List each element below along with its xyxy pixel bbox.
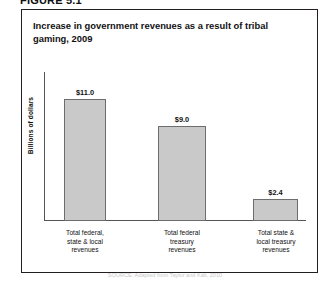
y-axis-line (44, 72, 45, 221)
category-label-line: revenues (145, 246, 219, 255)
category-label-3: Total state & local treasury revenues (239, 229, 313, 255)
category-label-2: Total federal treasury revenues (145, 229, 219, 255)
category-label-line: local treasury (239, 238, 313, 247)
category-label-1: Total federal, state & local revenues (48, 229, 122, 255)
y-axis-title: Billions of dollars (27, 91, 34, 161)
category-label-line: Total state & (239, 229, 313, 238)
category-label-line: treasury (145, 238, 219, 247)
bar-value-label: $11.0 (64, 88, 106, 97)
bar-total-state-local-treasury (253, 199, 298, 221)
bar-total-federal-state-local (64, 99, 106, 221)
category-label-line: Total federal, (48, 229, 122, 238)
category-label-line: state & local (48, 238, 122, 247)
bar-chart-plot-area: Billions of dollars $11.0 Total federal,… (22, 10, 318, 273)
category-label-line: revenues (48, 246, 122, 255)
category-label-line: revenues (239, 246, 313, 255)
figure-box: Increase in government revenues as a res… (21, 9, 318, 273)
bar-value-label: $9.0 (158, 115, 206, 124)
bar-value-label: $2.4 (253, 188, 298, 197)
figure-number-label: FIGURE 5.1 (20, 0, 82, 6)
category-label-line: Total federal (145, 229, 219, 238)
source-caption: SOURCE: Adapted from Taylor and Kalt, 20… (30, 272, 300, 279)
bar-total-federal-treasury (158, 126, 206, 221)
